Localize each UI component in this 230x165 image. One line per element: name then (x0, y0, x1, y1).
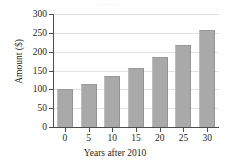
x-tick-mark (207, 128, 208, 132)
x-tick-mark (89, 128, 90, 132)
gridline (54, 33, 219, 34)
y-tick-mark (49, 127, 54, 128)
x-tick-label: 15 (131, 133, 141, 144)
y-tick-mark (49, 14, 54, 15)
y-tick-label: 50 (23, 103, 47, 113)
y-tick-label: 0 (23, 122, 47, 132)
x-tick-label: 10 (108, 133, 118, 144)
bar (81, 84, 97, 127)
y-tick-label: 200 (23, 47, 47, 57)
y-tick-label: 150 (23, 66, 47, 76)
x-tick-mark (65, 128, 66, 132)
y-tick-mark (49, 33, 54, 34)
y-tick-label: 250 (23, 28, 47, 38)
plot-area: 050100150200250300 051015202530 (53, 14, 219, 128)
y-tick-mark (49, 108, 54, 109)
x-tick-label: 5 (86, 133, 91, 144)
x-tick-label: 0 (62, 133, 67, 144)
x-tick-mark (160, 128, 161, 132)
x-axis-label: Years after 2010 (0, 148, 230, 159)
gridline (54, 14, 219, 15)
bar (128, 68, 144, 128)
x-tick-label: 30 (202, 133, 212, 144)
bar (175, 45, 191, 127)
gridline (54, 52, 219, 53)
x-tick-mark (136, 128, 137, 132)
x-tick-mark (112, 128, 113, 132)
y-tick-label: 300 (23, 9, 47, 19)
bar (57, 89, 73, 127)
bar (199, 30, 215, 127)
x-tick-mark (183, 128, 184, 132)
y-tick-mark (49, 52, 54, 53)
y-tick-mark (49, 89, 54, 90)
bar (152, 57, 168, 127)
y-tick-label: 100 (23, 84, 47, 94)
y-tick-mark (49, 71, 54, 72)
x-tick-label: 20 (155, 133, 165, 144)
cropped-header-text: ........ (96, 0, 166, 5)
bar (104, 76, 120, 127)
bar-chart-figure: ........ Amount ($) 050100150200250300 0… (0, 0, 230, 165)
x-tick-label: 25 (179, 133, 189, 144)
